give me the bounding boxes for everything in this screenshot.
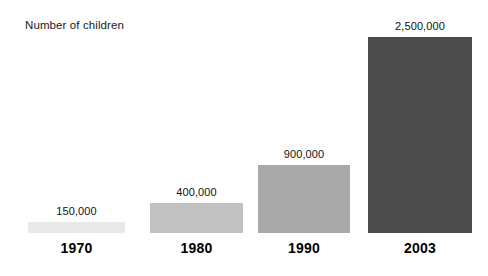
bar-value-label: 900,000 <box>258 148 350 160</box>
bar-category-label: 1970 <box>28 240 125 256</box>
bar-category-label: 2003 <box>368 240 472 256</box>
bar-rect <box>28 222 125 233</box>
bar-rect <box>368 37 472 233</box>
bar-group: 2,500,0002003 <box>368 0 472 276</box>
bar-value-label: 150,000 <box>28 205 125 217</box>
bar-group: 150,0001970 <box>28 0 125 276</box>
bar-value-label: 400,000 <box>150 186 243 198</box>
bar-rect <box>258 165 350 233</box>
bar-value-label: 2,500,000 <box>368 20 472 32</box>
bar-category-label: 1990 <box>258 240 350 256</box>
bar-chart: Number of children 150,0001970400,000198… <box>0 0 488 276</box>
bar-group: 900,0001990 <box>258 0 350 276</box>
bar-category-label: 1980 <box>150 240 243 256</box>
plot-area: 150,0001970400,0001980900,00019902,500,0… <box>0 0 488 276</box>
bar-group: 400,0001980 <box>150 0 243 276</box>
bar-rect <box>150 203 243 233</box>
